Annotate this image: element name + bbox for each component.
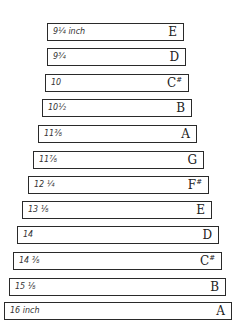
bar-3: 10C# xyxy=(45,74,189,92)
bar-note-label: B xyxy=(210,279,219,295)
bar-length-label: 14 xyxy=(23,229,33,241)
bar-9: 14D xyxy=(17,226,219,244)
bar-note-label: C# xyxy=(200,253,215,269)
bar-note-label: D xyxy=(169,49,179,65)
bar-note-label: G xyxy=(187,152,197,168)
note-letter: C xyxy=(200,254,209,268)
bar-1: 9¼ inchE xyxy=(47,23,184,41)
note-letter: G xyxy=(187,153,197,167)
bar-10: 14 ⅜C# xyxy=(13,252,222,270)
note-letter: A xyxy=(181,127,190,141)
bar-length-label: 11⅞ xyxy=(39,154,57,166)
bar-length-label: 12 ¼ xyxy=(34,179,54,191)
sharp-sign: # xyxy=(209,254,215,262)
bar-length-label: 11⅜ xyxy=(44,128,62,140)
bar-7: 12 ¼F# xyxy=(28,176,209,194)
bar-2: 9¾D xyxy=(47,48,186,66)
bar-note-label: A xyxy=(181,126,190,142)
bar-5: 11⅜A xyxy=(38,125,197,143)
note-letter: D xyxy=(202,228,212,242)
note-letter: F xyxy=(188,178,196,192)
sharp-sign: # xyxy=(196,178,202,186)
note-letter: D xyxy=(169,50,179,64)
bar-8: 13 ⅛E xyxy=(22,201,212,219)
bar-note-label: B xyxy=(176,100,185,116)
bar-12: 16 inchA xyxy=(4,302,232,320)
bar-length-label: 10 xyxy=(51,77,61,89)
sharp-sign: # xyxy=(176,76,182,84)
bar-6: 11⅞G xyxy=(33,151,204,169)
note-letter: E xyxy=(196,203,205,217)
bar-note-label: E xyxy=(196,202,205,218)
note-letter: C xyxy=(167,76,176,90)
bar-length-label: 9¾ xyxy=(53,51,66,63)
bar-length-label: 13 ⅛ xyxy=(28,204,48,216)
bar-length-label: 9¼ inch xyxy=(53,26,85,38)
bar-note-label: F# xyxy=(188,177,202,193)
bar-note-label: A xyxy=(216,303,225,319)
note-letter: B xyxy=(176,101,185,115)
bar-length-label: 16 inch xyxy=(10,305,39,317)
bar-4: 10½B xyxy=(42,99,192,117)
bar-11: 15 ⅛B xyxy=(9,278,226,296)
bar-note-label: D xyxy=(202,227,212,243)
note-letter: A xyxy=(216,304,225,318)
note-letter: B xyxy=(210,280,219,294)
bar-length-label: 15 ⅛ xyxy=(15,281,35,293)
bar-note-label: C# xyxy=(167,75,182,91)
bar-length-label: 14 ⅜ xyxy=(19,255,39,267)
note-letter: E xyxy=(168,25,177,39)
bar-length-label: 10½ xyxy=(48,102,66,114)
bar-note-label: E xyxy=(168,24,177,40)
